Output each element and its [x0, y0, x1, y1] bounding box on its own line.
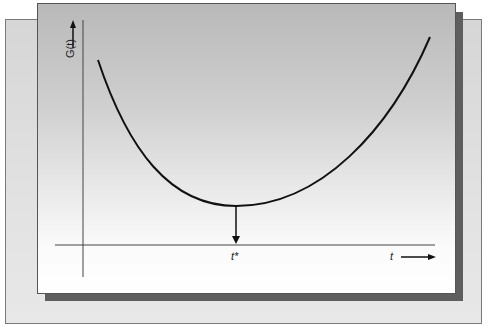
optimum-label: t*: [231, 250, 238, 262]
up-arrow-icon: [70, 20, 76, 28]
cost-curve: [98, 37, 430, 206]
x-axis-label: t: [390, 250, 393, 262]
down-arrow-icon: [232, 236, 240, 244]
y-axis-label: G(t): [64, 39, 76, 58]
right-arrow-icon: [428, 254, 436, 260]
